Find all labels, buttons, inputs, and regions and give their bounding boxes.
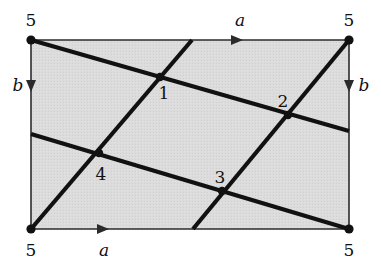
vertex-dot-4 (95, 149, 103, 157)
vertex-label-2: 2 (278, 91, 289, 111)
corner-label-bottom-left: 5 (26, 240, 37, 260)
corner-dot-top-left (26, 35, 35, 44)
vertex-label-1: 1 (159, 83, 170, 103)
fundamental-domain-face (31, 40, 349, 229)
edge-label-a-bottom: a (99, 240, 109, 260)
vertex-dot-1 (156, 73, 164, 81)
vertex-label-4: 4 (96, 164, 107, 184)
corner-label-top-left: 5 (26, 10, 37, 30)
corner-label-top-right: 5 (344, 10, 355, 30)
corner-dot-bottom-left (26, 224, 35, 233)
corner-label-bottom-right: 5 (344, 240, 355, 260)
corner-dot-top-right (344, 35, 353, 44)
edge-label-b-right: b (359, 75, 370, 95)
vertex-dot-2 (284, 111, 292, 119)
torus-diagram: 5 5 5 5 a a b b 1 2 3 4 (0, 0, 381, 266)
vertex-dot-3 (218, 187, 226, 195)
edge-label-a-top: a (235, 10, 245, 30)
corner-dot-bottom-right (344, 224, 353, 233)
vertex-label-3: 3 (215, 167, 226, 187)
edge-label-b-left: b (13, 75, 24, 95)
